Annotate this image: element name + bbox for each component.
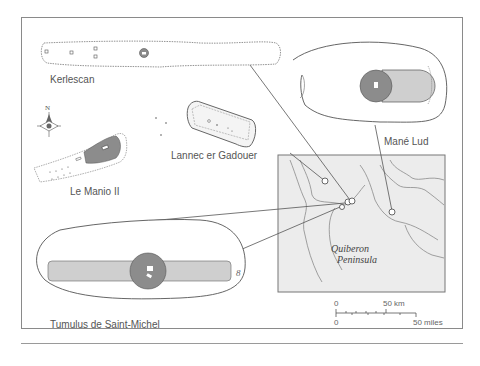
scale-miles-start: 0	[334, 318, 338, 327]
site-label-tumulus-saint-michel: Tumulus de Saint-Michel	[50, 319, 160, 330]
compass-rose	[37, 112, 61, 137]
lannec-er-gadouer-plan	[155, 101, 255, 147]
kerlescan-plan	[41, 41, 280, 67]
site-label-kerlescan: Kerlescan	[50, 74, 94, 85]
site-label-le-manio-ii: Le Manio II	[70, 186, 119, 197]
map-label-quiberon: Quiberon	[331, 243, 369, 254]
scale-km-end: 50 km	[383, 299, 405, 308]
mane-lud-plan	[293, 42, 447, 122]
figure-artwork: 8	[0, 0, 480, 366]
svg-text:8: 8	[236, 268, 241, 278]
scale-miles-end: 50 miles	[413, 318, 443, 327]
compass-north-label: N	[45, 104, 50, 112]
scale-bar	[336, 309, 416, 317]
le-manio-ii-plan	[34, 134, 127, 183]
map-inset	[278, 155, 445, 292]
tumulus-saint-michel-plan: 8	[37, 219, 246, 298]
site-label-lannec-er-gadouer: Lannec er Gadouer	[171, 150, 257, 161]
site-label-mane-lud: Mané Lud	[384, 136, 428, 147]
scale-km-start: 0	[334, 299, 338, 308]
map-label-peninsula: Peninsula	[337, 254, 377, 265]
